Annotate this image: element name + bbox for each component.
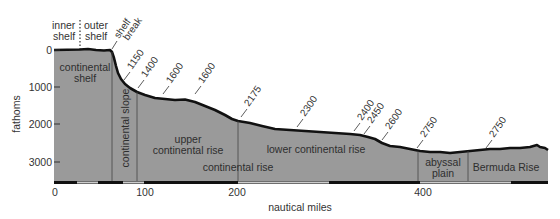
y-tick-2000: 2000 (29, 118, 53, 130)
continental-shelf-label-2: shelf (74, 72, 96, 84)
inner-shelf-label-2: shelf (53, 30, 75, 42)
x-axis-label: nautical miles (268, 201, 332, 213)
lower-continental-rise-label: lower continental rise (267, 143, 366, 155)
y-tick-1000: 1000 (29, 81, 53, 93)
depth-marker-1600-a: 1600 (164, 60, 186, 85)
outer-shelf-label-2: shelf (85, 30, 107, 42)
upper-continental-rise-label-2: continental rise (153, 144, 224, 156)
abyssal-plain-label-2: plain (432, 167, 454, 179)
continental-slope-label: continental slope (119, 88, 131, 167)
x-axis: 0 100 200 400 nautical miles (52, 186, 432, 213)
bermuda-rise-label: Bermuda Rise (473, 161, 540, 173)
depth-marker-2600: 2600 (383, 106, 405, 131)
x-tick-400: 400 (414, 186, 432, 198)
y-axis: 0 1000 2000 3000 fathoms (10, 44, 60, 168)
continental-margin-profile-diagram: 0 1000 2000 3000 fathoms 0 100 200 400 n… (0, 0, 560, 219)
x-tick-200: 200 (228, 186, 246, 198)
shelf-top-labels: inner shelf outer shelf shelf break (52, 15, 145, 49)
depth-marker-2300: 2300 (298, 93, 320, 118)
depth-marker-1600-b: 1600 (196, 60, 218, 85)
x-tick-0: 0 (52, 186, 58, 198)
x-scale-bar (54, 181, 548, 184)
continental-rise-label: continental rise (203, 161, 274, 173)
depth-marker-2175: 2175 (242, 83, 264, 108)
y-axis-label: fathoms (10, 95, 22, 132)
depth-marker-2750-b: 2750 (487, 114, 509, 139)
x-tick-100: 100 (136, 186, 154, 198)
y-tick-0: 0 (46, 44, 52, 56)
shelf-break-leader (112, 41, 117, 49)
depth-marker-2750-a: 2750 (418, 114, 440, 139)
y-tick-3000: 3000 (29, 156, 53, 168)
